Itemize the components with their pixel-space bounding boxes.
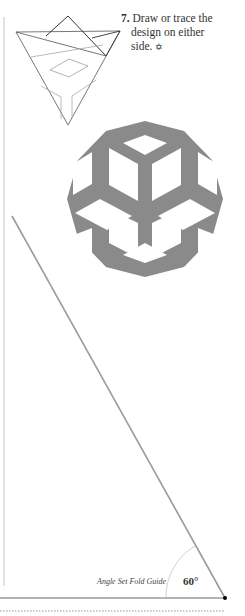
guide-label: Angle Set Fold Guide <box>97 577 166 586</box>
vertex-dot <box>223 596 227 600</box>
step-text-line1: Draw or trace the <box>133 12 213 24</box>
snowflake-cut-design <box>67 121 223 277</box>
folded-triangle-diagram <box>16 16 120 125</box>
angle-label: 60° <box>183 575 198 587</box>
step-text-line2: design on either <box>121 25 245 39</box>
page-artwork <box>0 0 245 616</box>
instruction-step: 7. Draw or trace the design on either si… <box>121 11 245 54</box>
angle-fold-guide <box>0 216 227 611</box>
step-number: 7. <box>121 12 130 24</box>
step-text-line3: side. <box>131 40 152 52</box>
star-ornament-icon: ✡ <box>155 42 163 52</box>
